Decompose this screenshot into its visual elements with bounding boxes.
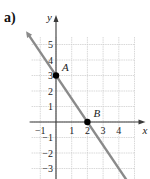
- coordinate-plane: xy −11234−3−2−112345 AB: [0, 0, 150, 179]
- y-tick-label: −3: [42, 163, 53, 174]
- point-a: [53, 72, 59, 78]
- y-tick-label: 2: [48, 86, 53, 97]
- point-label: A: [61, 61, 69, 73]
- y-tick-label: −2: [42, 148, 53, 159]
- y-tick-label: 5: [48, 39, 53, 50]
- point-b: [84, 119, 90, 125]
- x-tick-label: 1: [69, 125, 74, 136]
- y-axis-label: y: [46, 11, 52, 23]
- x-tick-label: 4: [116, 125, 121, 136]
- points: AB: [53, 61, 101, 126]
- x-axis-label: x: [142, 124, 148, 136]
- y-tick-label: −1: [42, 132, 53, 143]
- y-tick-label: 1: [48, 101, 53, 112]
- point-label: B: [93, 107, 100, 119]
- y-axis-arrow-icon: [54, 15, 59, 22]
- x-tick-label: 3: [101, 125, 106, 136]
